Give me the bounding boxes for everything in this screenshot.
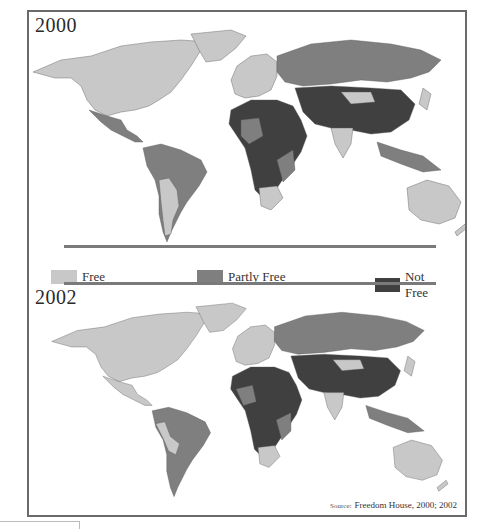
legend-separator-top	[64, 245, 436, 248]
russia-region	[277, 40, 441, 86]
stray-border-line	[0, 521, 80, 522]
legend-swatch-not-free	[375, 278, 400, 292]
new-zealand-region	[437, 480, 448, 491]
africa-south-region	[258, 446, 280, 468]
world-map-2000	[31, 20, 465, 250]
new-zealand-region	[455, 224, 465, 236]
world-map-2002	[31, 294, 465, 504]
africa-north-region	[229, 100, 307, 200]
source-caption: Source:Freedom House, 2000; 2002	[330, 500, 457, 510]
africa-north-region	[231, 367, 302, 458]
source-prefix: Source:	[330, 502, 351, 510]
africa-south-region	[259, 186, 283, 210]
australia-region	[407, 180, 461, 224]
europe-region	[231, 54, 277, 98]
japan-region	[419, 88, 431, 110]
greenland-region	[196, 303, 246, 332]
mexico-region	[89, 110, 143, 142]
stray-border-tick	[79, 521, 80, 529]
source-text: Freedom House, 2000; 2002	[355, 500, 458, 510]
southeast-asia-region	[366, 405, 424, 432]
south-america-region	[152, 407, 210, 496]
southeast-asia-region	[377, 142, 441, 172]
india-region	[324, 393, 344, 420]
legend-separator-bottom	[64, 282, 436, 285]
greenland-region	[191, 30, 246, 62]
japan-region	[404, 356, 415, 376]
europe-region	[232, 325, 274, 365]
australia-region	[393, 440, 442, 480]
mexico-region	[103, 376, 152, 405]
india-region	[331, 128, 353, 158]
north-america-region	[33, 40, 211, 116]
russia-region	[274, 312, 424, 354]
north-america-region	[52, 312, 215, 381]
map-figure-frame: 2000 Free	[27, 10, 467, 517]
